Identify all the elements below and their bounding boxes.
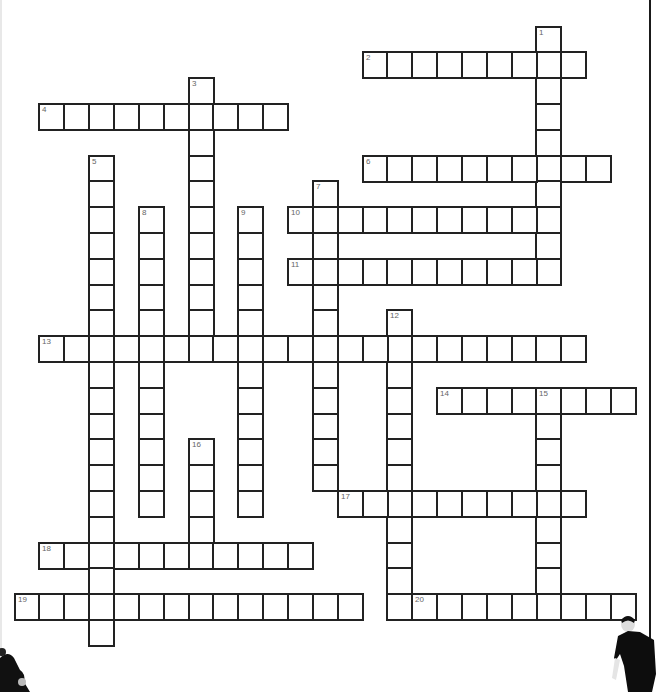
cell-letter-input[interactable] — [537, 415, 560, 439]
crossword-cell[interactable] — [386, 335, 413, 363]
crossword-cell[interactable] — [386, 206, 413, 234]
cell-letter-input[interactable] — [364, 337, 387, 361]
crossword-cell[interactable] — [163, 103, 190, 131]
cell-letter-input[interactable] — [165, 595, 188, 619]
cell-letter-input[interactable] — [239, 544, 262, 568]
crossword-cell[interactable] — [138, 490, 165, 518]
crossword-cell[interactable] — [461, 593, 488, 621]
crossword-cell[interactable] — [38, 593, 65, 621]
cell-letter-input[interactable] — [388, 544, 411, 568]
cell-letter-input[interactable] — [314, 440, 337, 464]
cell-letter-input[interactable] — [562, 157, 585, 181]
cell-letter-input[interactable] — [537, 492, 560, 516]
cell-letter-input[interactable] — [140, 105, 163, 129]
cell-letter-input[interactable] — [463, 157, 486, 181]
cell-letter-input[interactable] — [537, 595, 560, 619]
cell-letter-input[interactable] — [239, 363, 262, 387]
cell-letter-input[interactable] — [339, 595, 362, 619]
crossword-cell[interactable]: 8 — [138, 206, 165, 234]
cell-letter-input[interactable] — [40, 544, 63, 568]
crossword-cell[interactable] — [113, 103, 140, 131]
crossword-cell[interactable] — [535, 335, 562, 363]
cell-letter-input[interactable] — [65, 595, 88, 619]
cell-letter-input[interactable] — [537, 440, 560, 464]
cell-letter-input[interactable] — [537, 53, 560, 77]
cell-letter-input[interactable] — [90, 415, 113, 439]
cell-letter-input[interactable] — [413, 595, 436, 619]
crossword-cell[interactable] — [337, 258, 364, 286]
crossword-cell[interactable]: 5 — [88, 155, 115, 183]
crossword-cell[interactable] — [163, 593, 190, 621]
cell-letter-input[interactable] — [587, 389, 610, 413]
crossword-cell[interactable] — [188, 232, 215, 260]
cell-letter-input[interactable] — [140, 337, 163, 361]
cell-letter-input[interactable] — [513, 337, 536, 361]
cell-letter-input[interactable] — [190, 286, 213, 310]
cell-letter-input[interactable] — [190, 311, 213, 335]
crossword-cell[interactable] — [585, 593, 612, 621]
crossword-cell[interactable] — [362, 206, 389, 234]
crossword-cell[interactable] — [535, 464, 562, 492]
crossword-cell[interactable] — [535, 413, 562, 441]
crossword-cell[interactable] — [461, 387, 488, 415]
cell-letter-input[interactable] — [90, 492, 113, 516]
cell-letter-input[interactable] — [190, 595, 213, 619]
crossword-cell[interactable] — [88, 438, 115, 466]
cell-letter-input[interactable] — [388, 492, 411, 516]
crossword-cell[interactable] — [312, 232, 339, 260]
cell-letter-input[interactable] — [488, 157, 511, 181]
crossword-cell[interactable] — [88, 387, 115, 415]
crossword-cell[interactable]: 18 — [38, 542, 65, 570]
crossword-cell[interactable]: 2 — [362, 51, 389, 79]
crossword-cell[interactable] — [461, 51, 488, 79]
cell-letter-input[interactable] — [289, 208, 312, 232]
crossword-cell[interactable] — [138, 361, 165, 389]
crossword-cell[interactable] — [535, 103, 562, 131]
cell-letter-input[interactable] — [314, 595, 337, 619]
cell-letter-input[interactable] — [140, 311, 163, 335]
cell-letter-input[interactable] — [190, 131, 213, 155]
cell-letter-input[interactable] — [264, 595, 287, 619]
cell-letter-input[interactable] — [537, 544, 560, 568]
cell-letter-input[interactable] — [264, 105, 287, 129]
crossword-cell[interactable] — [560, 490, 587, 518]
cell-letter-input[interactable] — [90, 595, 113, 619]
cell-letter-input[interactable] — [314, 311, 337, 335]
cell-letter-input[interactable] — [537, 79, 560, 103]
crossword-cell[interactable] — [262, 593, 289, 621]
crossword-cell[interactable] — [535, 542, 562, 570]
cell-letter-input[interactable] — [488, 53, 511, 77]
crossword-cell[interactable] — [386, 593, 413, 621]
crossword-cell[interactable] — [237, 284, 264, 312]
cell-letter-input[interactable] — [190, 157, 213, 181]
crossword-cell[interactable] — [88, 516, 115, 544]
crossword-cell[interactable] — [511, 51, 538, 79]
crossword-cell[interactable] — [362, 335, 389, 363]
cell-letter-input[interactable] — [264, 337, 287, 361]
cell-letter-input[interactable] — [413, 337, 436, 361]
cell-letter-input[interactable] — [537, 518, 560, 542]
cell-letter-input[interactable] — [239, 440, 262, 464]
cell-letter-input[interactable] — [239, 286, 262, 310]
cell-letter-input[interactable] — [488, 492, 511, 516]
crossword-cell[interactable] — [535, 129, 562, 157]
crossword-cell[interactable] — [237, 413, 264, 441]
cell-letter-input[interactable] — [239, 311, 262, 335]
cell-letter-input[interactable] — [562, 337, 585, 361]
crossword-cell[interactable] — [486, 258, 513, 286]
crossword-cell[interactable] — [88, 335, 115, 363]
cell-letter-input[interactable] — [537, 131, 560, 155]
crossword-cell[interactable] — [461, 335, 488, 363]
cell-letter-input[interactable] — [289, 260, 312, 284]
crossword-cell[interactable] — [535, 180, 562, 208]
crossword-cell[interactable] — [138, 464, 165, 492]
cell-letter-input[interactable] — [438, 492, 461, 516]
crossword-cell[interactable] — [386, 567, 413, 595]
cell-letter-input[interactable] — [339, 208, 362, 232]
crossword-cell[interactable] — [560, 155, 587, 183]
cell-letter-input[interactable] — [214, 337, 237, 361]
cell-letter-input[interactable] — [537, 260, 560, 284]
cell-letter-input[interactable] — [388, 466, 411, 490]
cell-letter-input[interactable] — [537, 466, 560, 490]
crossword-cell[interactable] — [436, 155, 463, 183]
